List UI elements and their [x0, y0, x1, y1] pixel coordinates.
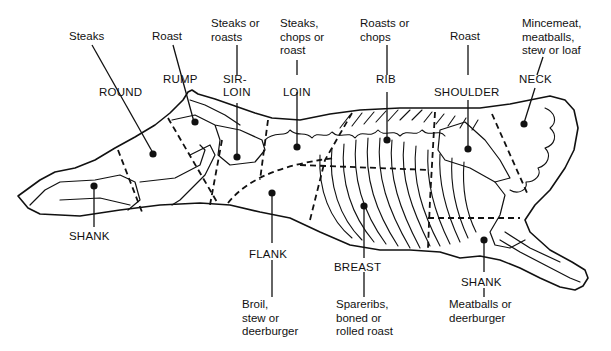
rib-use-label: Roasts or chops — [360, 17, 409, 44]
neck-vertebrae — [510, 108, 555, 192]
loin-cut-label: LOIN — [283, 86, 311, 99]
loin-use-label: Steaks, chops or roast — [280, 17, 324, 58]
shoulder-cut-label: SHOULDER — [434, 86, 500, 99]
rib-cut-label: RIB — [376, 73, 396, 86]
carcass-outline — [18, 90, 588, 290]
foreleg-bones — [490, 182, 580, 282]
shoulder-use-label: Roast — [450, 30, 480, 44]
round-cut-label: ROUND — [99, 86, 142, 99]
flank-use-label: Broil, stew or deerburger — [242, 298, 298, 339]
spine — [265, 130, 445, 140]
rump-use-label: Roast — [152, 30, 182, 44]
neck-cut-label: NECK — [519, 73, 552, 86]
flank-cut-label: FLANK — [249, 248, 287, 261]
sirloin-cut-label: SIR- LOIN — [223, 73, 251, 99]
breast-use-label: Spareribs, boned or rolled roast — [336, 298, 393, 339]
ribs — [320, 138, 476, 248]
fore-shank-use-label: Meatballs or deerburger — [449, 298, 512, 325]
scapula — [438, 122, 510, 182]
cut-lines — [118, 112, 528, 248]
hind-shank-cut-label: SHANK — [69, 230, 110, 243]
cut-line-round-rump — [168, 118, 217, 202]
neck-use-label: Mincemeat, meatballs, stew or loaf — [522, 17, 581, 58]
hind-leg-bones — [30, 145, 215, 210]
rump-cut-label: RUMP — [163, 73, 198, 86]
cut-line-sirloin-loin — [260, 120, 268, 180]
breast-cut-label: BREAST — [334, 261, 381, 274]
sirloin-use-label: Steaks or roasts — [211, 17, 260, 44]
round-use-label: Steaks — [69, 30, 104, 44]
spinous-processes — [340, 110, 478, 130]
fore-shank-cut-label: SHANK — [461, 276, 502, 289]
